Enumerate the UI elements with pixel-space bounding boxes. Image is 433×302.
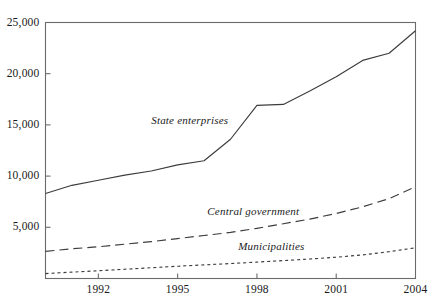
x-axis-label-1992: 1992 xyxy=(68,283,128,295)
y-axis-label-20000: 20,000 xyxy=(7,67,40,79)
y-axis-label-10000: 10,000 xyxy=(7,169,40,181)
series-line-2 xyxy=(46,248,416,274)
x-axis-label-1995: 1995 xyxy=(148,283,208,295)
series-label-state-enterprises: State enterprises xyxy=(151,114,228,126)
x-axis-label-2004: 2004 xyxy=(386,283,433,295)
series-line-0 xyxy=(46,31,416,194)
series-label-central-government: Central government xyxy=(207,205,299,217)
y-axis-label-15000: 15,000 xyxy=(7,118,40,130)
series-label-municipalities: Municipalities xyxy=(238,240,304,252)
series-line-1 xyxy=(46,187,416,252)
y-axis-label-5000: 5,000 xyxy=(13,220,40,232)
x-axis-label-2001: 2001 xyxy=(306,283,366,295)
x-axis-label-1998: 1998 xyxy=(227,283,287,295)
plot-frame xyxy=(46,23,416,279)
line-chart: 5,00010,00015,00020,00025,000 1992199519… xyxy=(0,0,433,302)
y-axis-label-25000: 25,000 xyxy=(7,16,40,28)
chart-plot-area xyxy=(0,0,433,302)
